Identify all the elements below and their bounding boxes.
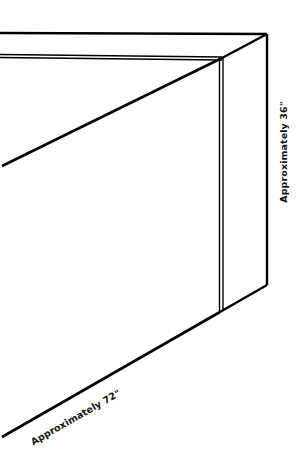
bottom-corner-diagonal	[220, 285, 267, 312]
top-corner-diagonal	[222, 34, 267, 58]
bottom-long-diagonal	[2, 312, 220, 437]
diagram-canvas: Approximately 36" Approximately 72"	[0, 0, 308, 466]
top-outer-edge	[0, 33, 267, 34]
upper-long-diagonal	[2, 58, 222, 166]
height-dimension-label: Approximately 36"	[278, 101, 289, 202]
top-inner-edge-upper	[0, 55, 222, 58]
top-inner-edge-lower	[0, 58, 222, 61]
frame-diagram: Approximately 36" Approximately 72"	[0, 0, 308, 466]
